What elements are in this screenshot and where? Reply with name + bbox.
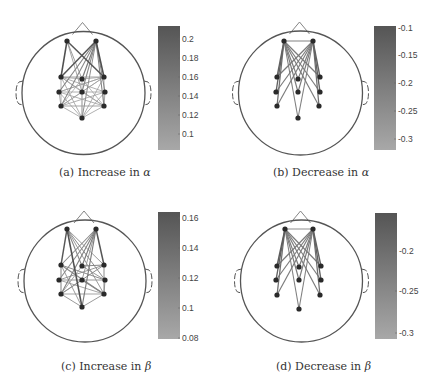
colorbar-tick-label: 0.16 xyxy=(182,213,199,223)
electrode-dot xyxy=(79,263,84,268)
colorbar-tick-label: -0.1 xyxy=(398,23,413,33)
connection-edge xyxy=(67,229,82,266)
colorbar xyxy=(158,212,180,339)
colorbar-tick-label: 0.08 xyxy=(182,333,199,343)
colorbar-tick-label: 0.12 xyxy=(182,110,199,120)
caption-c-symbol: β xyxy=(145,360,151,373)
nose-icon xyxy=(73,23,93,35)
colorbar-tick-label: -0.2 xyxy=(399,246,414,256)
head-outline xyxy=(241,220,363,342)
connection-edge xyxy=(96,229,104,265)
electrode-dot xyxy=(79,115,84,120)
electrode-dot xyxy=(295,76,300,81)
colorbar xyxy=(374,26,396,150)
electrode-dot xyxy=(296,264,301,269)
electrode-dot xyxy=(273,89,278,94)
electrode-dot xyxy=(58,262,63,267)
caption-c-text: (c) Increase in xyxy=(61,360,145,373)
electrode-dot xyxy=(282,226,287,231)
colorbar xyxy=(375,213,397,339)
nose-icon xyxy=(290,22,310,34)
caption-d-text: (d) Decrease in xyxy=(276,360,365,373)
caption-b-symbol: α xyxy=(362,166,369,179)
electrode-dot xyxy=(56,89,61,94)
electrode-dot xyxy=(310,226,315,231)
colorbar-tick-label: 0.16 xyxy=(182,72,199,82)
electrode-dot xyxy=(79,277,84,282)
electrode-dot xyxy=(56,277,61,282)
colorbar-tick-label: -0.3 xyxy=(399,328,414,338)
panel-b-decrease-alpha: -0.1-0.15-0.2-0.25-0.3 xyxy=(233,22,418,155)
caption-d-symbol: β xyxy=(365,360,371,373)
electrode-dot xyxy=(93,38,98,43)
electrode-dot xyxy=(317,89,322,94)
colorbar-tick-label: 0.2 xyxy=(182,34,194,44)
colorbar-tick-label: 0.1 xyxy=(182,129,194,139)
electrode-dot xyxy=(318,277,323,282)
electrode-dot xyxy=(274,292,279,297)
colorbar xyxy=(158,26,180,150)
electrode-dot xyxy=(101,74,106,79)
colorbar-tick-label: 0.14 xyxy=(182,91,199,101)
electrode-dot xyxy=(93,226,98,231)
caption-b-text: (b) Decrease in xyxy=(273,166,362,179)
electrode-dot xyxy=(101,262,106,267)
electrode-dot xyxy=(316,103,321,108)
electrode-dot xyxy=(58,103,63,108)
electrode-dot xyxy=(274,103,279,108)
electrode-dot xyxy=(274,74,279,79)
electrode-dot xyxy=(79,304,84,309)
colorbar-tick-label: -0.3 xyxy=(398,134,413,144)
electrode-dot xyxy=(295,89,300,94)
colorbar-tick-label: 0.1 xyxy=(182,303,194,313)
colorbar-tick-label: -0.2 xyxy=(398,78,413,88)
electrode-dot xyxy=(64,38,69,43)
figure-canvas: 0.20.180.160.140.120.1 -0.1-0.15-0.2-0.2… xyxy=(0,0,437,392)
connection-edge xyxy=(67,41,82,79)
caption-a-symbol: α xyxy=(143,166,150,179)
electrode-dot xyxy=(317,292,322,297)
caption-a-text: (a) Increase in xyxy=(59,166,143,179)
caption-a: (a) Increase in α xyxy=(59,166,151,179)
electrode-dot xyxy=(296,306,301,311)
electrode-dot xyxy=(310,38,315,43)
electrode-dot xyxy=(58,291,63,296)
electrode-dot xyxy=(295,115,300,120)
colorbar-tick-label: 0.12 xyxy=(182,273,199,283)
electrode-dot xyxy=(102,277,107,282)
caption-c: (c) Increase in β xyxy=(61,360,151,373)
electrode-dot xyxy=(281,38,286,43)
electrode-dot xyxy=(317,74,322,79)
electrode-dot xyxy=(274,263,279,268)
panel-d-decrease-beta: -0.2-0.25-0.3 xyxy=(235,211,419,342)
colorbar-tick-label: 0.14 xyxy=(182,243,199,253)
head-outline xyxy=(239,31,363,155)
nose-icon xyxy=(74,211,94,223)
colorbar-tick-label: -0.25 xyxy=(398,106,418,116)
connection-edge xyxy=(82,41,96,79)
colorbar-tick-label: -0.15 xyxy=(398,50,418,60)
panel-c-increase-beta: 0.160.140.120.10.08 xyxy=(18,211,199,343)
nose-icon xyxy=(291,211,311,223)
electrode-dot xyxy=(79,76,84,81)
electrode-dot xyxy=(102,89,107,94)
connection-edge xyxy=(82,229,96,266)
electrode-dot xyxy=(101,103,106,108)
connection-edge xyxy=(276,41,284,92)
electrode-dot xyxy=(296,277,301,282)
electrode-dot xyxy=(318,263,323,268)
electrode-dot xyxy=(79,89,84,94)
electrode-dot xyxy=(64,226,69,231)
caption-d: (d) Decrease in β xyxy=(276,360,371,373)
panel-a-increase-alpha: 0.20.180.160.140.120.1 xyxy=(16,23,199,155)
colorbar-tick-label: -0.25 xyxy=(399,286,419,296)
caption-b: (b) Decrease in α xyxy=(273,166,369,179)
electrode-dot xyxy=(101,291,106,296)
colorbar-tick-label: 0.18 xyxy=(182,53,199,63)
connection-edge xyxy=(82,294,104,307)
electrode-dot xyxy=(273,277,278,282)
electrode-dot xyxy=(58,74,63,79)
